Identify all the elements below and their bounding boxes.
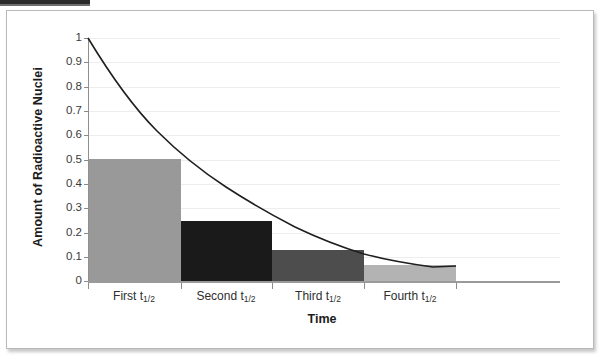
y-axis-line bbox=[88, 38, 89, 282]
x-axis-line bbox=[88, 281, 560, 283]
xtick-label-subscript: 1/2 bbox=[329, 294, 341, 304]
xtick-label-fourth: Fourth t1/2 bbox=[350, 289, 470, 304]
xtick-label-text: First t bbox=[113, 289, 143, 303]
xtick-label-subscript: 1/2 bbox=[244, 294, 256, 304]
bar-fourth-halflife[interactable] bbox=[364, 265, 456, 281]
bar-second-halflife[interactable] bbox=[181, 221, 272, 281]
xtick-label-subscript: 1/2 bbox=[425, 294, 437, 304]
y-axis-title: Amount of Radioactive Nuclei bbox=[31, 57, 45, 257]
xtick-label-text: Fourth t bbox=[383, 289, 424, 303]
x-axis-title: Time bbox=[262, 312, 382, 326]
bars-layer bbox=[0, 0, 602, 281]
decay-chart: 1 0.9 0.8 0.7 0.6 0.5 0.4 0.3 0.2 0.1 0 bbox=[0, 0, 602, 362]
xtick-label-subscript: 1/2 bbox=[143, 294, 155, 304]
bar-third-halflife[interactable] bbox=[272, 250, 364, 281]
xtick-label-text: Third t bbox=[295, 289, 329, 303]
bar-first-halflife[interactable] bbox=[88, 159, 181, 281]
xtick-label-text: Second t bbox=[196, 289, 243, 303]
